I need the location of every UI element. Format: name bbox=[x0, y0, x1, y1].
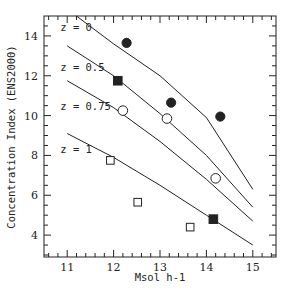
curve-label: z = 0 bbox=[60, 21, 92, 33]
y-tick-label: 8 bbox=[31, 149, 38, 162]
filled-square-marker bbox=[113, 76, 122, 85]
y-axis-title: Concentration Index (ENS2000) bbox=[5, 45, 17, 228]
x-tick-label: 11 bbox=[60, 261, 74, 274]
filled-circle-marker bbox=[167, 98, 176, 107]
filled-square-marker bbox=[209, 215, 218, 224]
curve-label: z = 0.75 bbox=[60, 100, 111, 112]
x-tick-label: 15 bbox=[246, 261, 260, 274]
data-points bbox=[107, 38, 225, 231]
y-tick-label: 4 bbox=[31, 229, 38, 242]
axis-ticks bbox=[44, 16, 276, 257]
y-tick-label: 10 bbox=[24, 110, 38, 123]
filled-circle-marker bbox=[216, 112, 225, 121]
concentration-mass-chart: z = 0z = 0.5z = 0.75z = 1 11121314154681… bbox=[0, 0, 290, 290]
open-circle-marker bbox=[211, 174, 221, 184]
open-square-marker bbox=[107, 157, 115, 165]
x-tick-label: 14 bbox=[199, 261, 213, 274]
x-tick-label: 12 bbox=[107, 261, 121, 274]
open-circle-marker bbox=[118, 106, 128, 116]
curve-label: z = 1 bbox=[60, 143, 92, 155]
filled-circle-marker bbox=[122, 38, 131, 47]
curve-z1 bbox=[67, 134, 253, 246]
model-curves bbox=[67, 16, 253, 245]
curve-labels: z = 0z = 0.5z = 0.75z = 1 bbox=[60, 21, 111, 155]
x-axis-title: Msol h-1 bbox=[135, 271, 186, 283]
curve-label: z = 0.5 bbox=[60, 61, 104, 73]
y-tick-label: 12 bbox=[24, 70, 38, 83]
open-square-marker bbox=[134, 198, 142, 206]
y-tick-label: 14 bbox=[24, 30, 38, 43]
open-circle-marker bbox=[162, 114, 172, 124]
open-square-marker bbox=[186, 223, 194, 231]
plot-frame bbox=[44, 16, 276, 257]
y-tick-label: 6 bbox=[31, 189, 38, 202]
